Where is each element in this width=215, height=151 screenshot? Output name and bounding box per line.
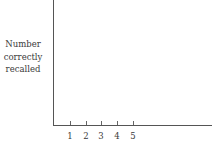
x-tick-label: 4 bbox=[111, 131, 123, 141]
y-axis-label-line: correctly bbox=[0, 51, 46, 64]
y-axis-label-line: recalled bbox=[0, 63, 46, 76]
x-tick-label: 3 bbox=[95, 131, 107, 141]
y-axis-label: Number correctly recalled bbox=[0, 38, 46, 76]
y-axis-line bbox=[53, 0, 54, 126]
x-tick bbox=[70, 121, 71, 125]
x-tick bbox=[133, 121, 134, 125]
x-tick-label: 5 bbox=[127, 131, 139, 141]
x-tick bbox=[101, 121, 102, 125]
x-tick-label: 1 bbox=[64, 131, 76, 141]
x-tick-label: 2 bbox=[80, 131, 92, 141]
y-axis-label-line: Number bbox=[0, 38, 46, 51]
x-tick bbox=[117, 121, 118, 125]
x-axis-line bbox=[53, 125, 212, 126]
x-tick bbox=[86, 121, 87, 125]
